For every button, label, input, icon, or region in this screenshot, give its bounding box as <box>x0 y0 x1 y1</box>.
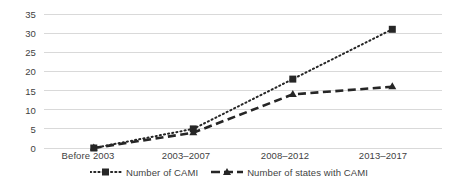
x-axis-tick-label: 2013–2017 <box>333 150 433 161</box>
x-axis-tick-label: 2008–2012 <box>235 150 335 161</box>
y-axis-tick-label: 20 <box>10 66 36 77</box>
legend-swatch-dotted-square-icon <box>90 166 122 178</box>
series-number-of-states-with-cami <box>90 82 397 150</box>
y-axis-tick-label: 35 <box>10 9 36 20</box>
legend-entry-number-of-states-with-cami[interactable]: Number of states with CAMI <box>211 166 368 178</box>
series-line-number-of-cami <box>94 29 393 148</box>
y-axis-tick-label: 30 <box>10 28 36 39</box>
y-axis-tick-label: 10 <box>10 105 36 116</box>
y-axis-tick-label: 15 <box>10 86 36 97</box>
y-axis-tick-label: 0 <box>10 143 36 154</box>
y-axis-tick-label: 25 <box>10 47 36 58</box>
legend-entry-number-of-cami[interactable]: Number of CAMI <box>90 166 198 178</box>
series-number-of-cami <box>90 26 396 152</box>
legend-label: Number of CAMI <box>126 167 198 178</box>
legend-swatch-dashed-triangle-icon <box>211 166 243 178</box>
x-axis-tick-label: 2003–2007 <box>136 150 236 161</box>
data-point-marker <box>389 26 396 33</box>
chart-container: 35 30 25 20 15 10 5 0 Before 2003 2003–2… <box>0 0 458 186</box>
legend-label: Number of states with CAMI <box>247 167 368 178</box>
y-axis-tick-label: 5 <box>10 124 36 135</box>
data-point-marker <box>289 76 296 83</box>
x-axis-tick-label: Before 2003 <box>38 150 138 161</box>
chart-legend: Number of CAMI Number of states with CAM… <box>0 166 458 178</box>
